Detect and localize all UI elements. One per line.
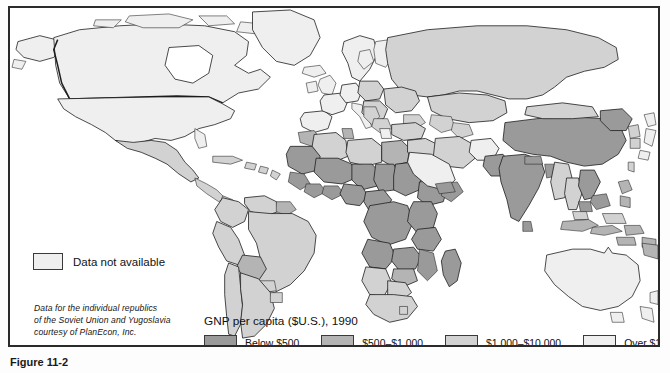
legend-item-500-1000: $500–$1,000 — [321, 335, 423, 347]
data-not-available-label: Data not available — [73, 256, 165, 268]
data-not-available-swatch — [33, 253, 63, 270]
source-note: Data for the individual republics of the… — [34, 302, 171, 339]
legend-item-over-10000: Over $10,000 — [583, 335, 660, 347]
source-note-line-2: of the Soviet Union and Yugoslavia — [34, 314, 171, 326]
map-frame: .ld{fill:#efefef;stroke:#1c1c1c;stroke-w… — [8, 6, 660, 347]
legend-label-500-1000: $500–$1,000 — [362, 338, 423, 347]
legend-swatch-500-1000 — [321, 335, 354, 347]
legend-swatch-below-500 — [204, 335, 237, 347]
legend-item-1000-10000: $1,000–$10,000 — [445, 335, 561, 347]
figure-caption: Figure 11-2 — [10, 356, 68, 368]
data-not-available-key: Data not available — [33, 253, 165, 270]
legend-label-1000-10000: $1,000–$10,000 — [486, 338, 561, 347]
source-note-line-3: courtesy of PlanEcon, Inc. — [34, 326, 171, 338]
legend-swatch-1000-10000 — [445, 335, 478, 347]
legend-title: GNP per capita ($U.S.), 1990 — [204, 314, 660, 328]
source-note-line-1: Data for the individual republics — [34, 302, 171, 314]
legend-label-over-10000: Over $10,000 — [624, 338, 660, 347]
world-map-svg: .ld{fill:#efefef;stroke:#1c1c1c;stroke-w… — [10, 8, 658, 345]
legend-label-below-500: Below $500 — [245, 338, 299, 347]
legend-item-below-500: Below $500 — [204, 335, 299, 347]
legend-swatch-over-10000 — [583, 335, 616, 347]
legend-items: Below $500 $500–$1,000 $1,000–$10,000 Ov… — [204, 335, 660, 347]
map-canvas: .ld{fill:#efefef;stroke:#1c1c1c;stroke-w… — [10, 8, 658, 345]
figure-container: .ld{fill:#efefef;stroke:#1c1c1c;stroke-w… — [0, 0, 670, 373]
map-legend: GNP per capita ($U.S.), 1990 Below $500 … — [204, 314, 660, 347]
